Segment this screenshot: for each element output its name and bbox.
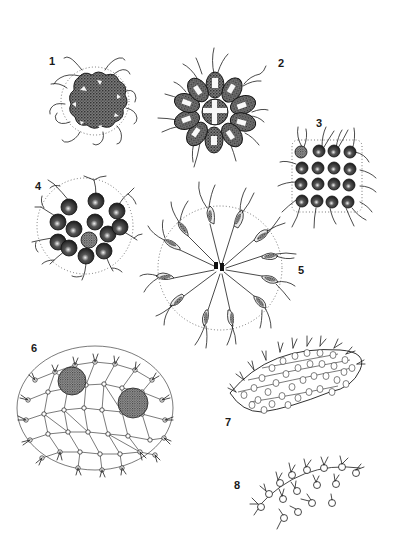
illustration-plate: 1 2 3 4 5 6 7 8 <box>0 0 398 552</box>
figure-3-colony <box>278 127 376 228</box>
figure-8-detail <box>250 456 364 529</box>
figure-label-1: 1 <box>49 56 55 67</box>
figure-label-7: 7 <box>225 417 231 428</box>
plate-drawing <box>0 0 398 552</box>
figure-1-colony <box>50 57 137 145</box>
figure-label-2: 2 <box>278 58 284 69</box>
figure-label-8: 8 <box>234 480 240 491</box>
figure-6-colony <box>17 346 173 477</box>
figure-label-4: 4 <box>35 181 41 192</box>
figure-4-colony <box>32 176 142 280</box>
figure-2-colony <box>158 48 268 167</box>
figure-7-wall-section <box>228 336 365 414</box>
figure-label-6: 6 <box>31 343 37 354</box>
figure-5-colony <box>140 182 296 348</box>
figure-label-5: 5 <box>298 265 304 276</box>
figure-label-3: 3 <box>316 118 322 129</box>
